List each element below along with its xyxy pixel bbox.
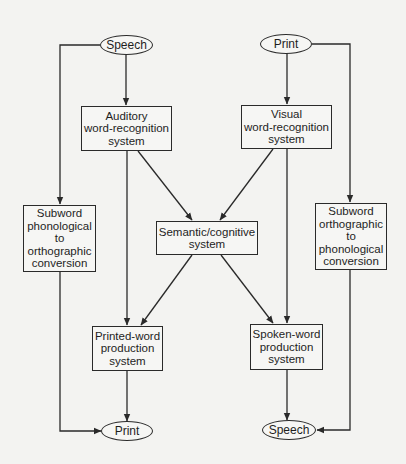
- edge-auditory-semantic: [138, 151, 192, 220]
- node-visual-word-recognition: Visual word-recognition system: [241, 105, 332, 149]
- node-label: Printed-word production system: [95, 330, 160, 368]
- node-semantic-cognitive: Semantic/cognitive system: [156, 221, 258, 255]
- node-label: Print: [115, 424, 140, 438]
- node-label: Subword orthographic to phonological con…: [319, 205, 384, 268]
- node-speech-output: Speech: [262, 420, 316, 440]
- node-label: Semantic/cognitive system: [159, 226, 256, 251]
- node-label: Subword phonological to orthographic con…: [27, 207, 92, 270]
- node-label: Spoken-word production system: [253, 328, 321, 366]
- node-speech-input: Speech: [100, 35, 153, 55]
- node-subword-phonological-to-orthographic: Subword phonological to orthographic con…: [23, 205, 96, 272]
- node-label: Speech: [106, 38, 147, 52]
- node-label: Auditory word-recognition system: [84, 110, 169, 148]
- node-printed-word-production: Printed-word production system: [92, 326, 163, 371]
- node-spoken-word-production: Spoken-word production system: [250, 324, 323, 370]
- node-subword-orthographic-to-phonological: Subword orthographic to phonological con…: [315, 203, 387, 270]
- node-print-output: Print: [101, 421, 153, 441]
- node-label: Print: [274, 37, 299, 51]
- edge-semantic-printed: [141, 255, 192, 325]
- node-print-input: Print: [260, 34, 312, 54]
- edge-semantic-spoken: [221, 255, 273, 323]
- node-label: Visual word-recognition system: [244, 108, 329, 146]
- node-label: Speech: [269, 423, 310, 437]
- edge-visual-semantic: [220, 149, 273, 220]
- diagram-canvas: Speech Print Auditory word-recognition s…: [0, 0, 406, 464]
- node-auditory-word-recognition: Auditory word-recognition system: [81, 106, 172, 151]
